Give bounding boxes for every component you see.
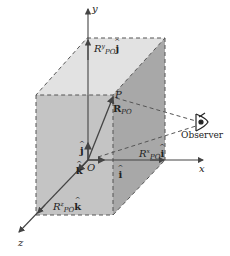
z-sub: PO — [64, 206, 74, 214]
origin-label: O — [87, 163, 95, 173]
unit-j-label: j — [80, 146, 84, 156]
vector-subscript: PO — [121, 108, 131, 116]
y-sub: PO — [105, 48, 115, 56]
y-axis-label: y — [92, 4, 98, 14]
unit-i-label: i — [119, 170, 123, 180]
x-unit: i — [160, 149, 164, 159]
point-label: P — [115, 90, 122, 100]
position-vector-label: RPO — [113, 104, 132, 116]
unit-k-label: k — [76, 166, 83, 176]
observer-label: Observer — [181, 131, 223, 140]
x-coef: R — [139, 148, 147, 159]
z-component-label: RzPOk — [53, 201, 81, 214]
diagram-canvas: y x z O P RPO RyPOj RxPOi RzPOk j k i Ob… — [0, 0, 230, 256]
z-coef: R — [53, 201, 61, 212]
y-unit: j — [115, 44, 119, 54]
z-axis-label: z — [18, 238, 23, 248]
y-coef: R — [94, 43, 102, 54]
x-sub: PO — [150, 153, 160, 161]
z-unit: k — [74, 202, 81, 212]
y-component-label: RyPOj — [94, 43, 119, 56]
x-axis-label: x — [199, 164, 205, 174]
x-component-label: RxPOi — [139, 148, 164, 161]
eye-icon — [196, 113, 208, 131]
